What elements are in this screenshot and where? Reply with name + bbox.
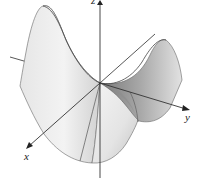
y-axis-label: y — [185, 112, 190, 123]
saddle-surface-diagram: z y x — [0, 0, 198, 184]
x-axis-label: x — [24, 151, 29, 162]
surface-left-lobe — [20, 6, 100, 163]
diagram-svg — [0, 0, 198, 184]
z-axis-label: z — [91, 0, 95, 6]
z-axis-arrow-icon — [97, 0, 103, 5]
